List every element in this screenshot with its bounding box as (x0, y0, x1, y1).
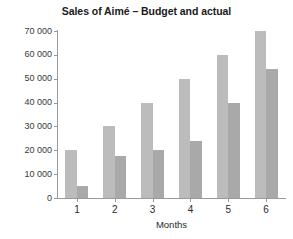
x-tick-label: 1 (62, 204, 92, 216)
bar-actual-month-5 (228, 103, 240, 198)
y-tick-mark (54, 174, 57, 175)
x-tick-mark (115, 199, 116, 202)
bar-budget-month-4 (179, 79, 191, 198)
y-tick-label: 50 000 (2, 74, 52, 83)
bar-chart: Sales of Aimé – Budget and actual 010 00… (0, 0, 293, 239)
y-tick-mark (54, 31, 57, 32)
y-tick-label: 0 (2, 194, 52, 203)
y-tick-mark (54, 126, 57, 127)
bar-actual-month-4 (190, 141, 202, 198)
y-tick-label: 70 000 (2, 27, 52, 36)
bar-budget-month-3 (141, 103, 153, 198)
x-tick-label: 3 (138, 204, 168, 216)
x-tick-mark (190, 199, 191, 202)
bar-budget-month-5 (217, 55, 229, 198)
x-tick-mark (153, 199, 154, 202)
x-tick-label: 2 (100, 204, 130, 216)
bar-actual-month-1 (77, 186, 89, 198)
y-tick-label: 40 000 (2, 98, 52, 107)
x-axis-line (57, 198, 286, 199)
x-tick-label: 6 (251, 204, 281, 216)
y-tick-mark (54, 103, 57, 104)
y-tick-mark (54, 198, 57, 199)
bar-actual-month-2 (115, 156, 127, 198)
y-tick-label: 10 000 (2, 170, 52, 179)
y-tick-mark (54, 150, 57, 151)
plot-area (58, 31, 285, 198)
y-tick-label: 20 000 (2, 146, 52, 155)
x-tick-mark (77, 199, 78, 202)
bar-budget-month-2 (103, 126, 115, 198)
x-tick-mark (266, 199, 267, 202)
y-tick-label: 30 000 (2, 122, 52, 131)
bar-budget-month-6 (255, 31, 267, 198)
bar-budget-month-1 (65, 150, 77, 198)
bar-actual-month-3 (153, 150, 165, 198)
bar-actual-month-6 (266, 69, 278, 198)
y-tick-label: 60 000 (2, 50, 52, 59)
x-axis-title: Months (58, 219, 285, 230)
chart-title: Sales of Aimé – Budget and actual (0, 5, 293, 17)
x-tick-label: 4 (175, 204, 205, 216)
y-tick-mark (54, 55, 57, 56)
x-tick-label: 5 (213, 204, 243, 216)
x-tick-mark (228, 199, 229, 202)
y-tick-mark (54, 79, 57, 80)
